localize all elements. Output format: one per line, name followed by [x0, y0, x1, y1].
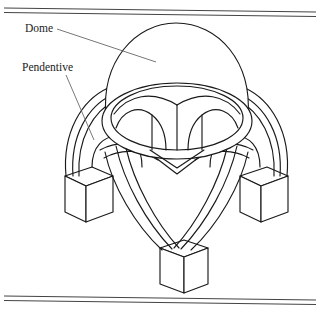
pier-left: [65, 167, 113, 222]
bottom-rule-line-2: [4, 301, 316, 305]
pendentive-front-groin-lower: [156, 158, 198, 174]
figure-page: Dome Pendentive: [0, 0, 320, 313]
arch-front-right-inner-2: [174, 148, 227, 248]
label-dome: Dome: [25, 22, 53, 34]
dome-structure: [65, 23, 288, 293]
pier-front: [160, 240, 208, 293]
arch-front-left-inner-2: [126, 148, 179, 248]
top-rule: [4, 8, 316, 17]
top-rule-line-2: [4, 13, 316, 17]
pier-right: [240, 167, 288, 222]
label-pendentive: Pendentive: [22, 61, 73, 73]
bottom-rule: [4, 296, 316, 305]
pendentive-dome-diagram: Dome Pendentive: [0, 0, 320, 313]
bottom-rule-line-1: [4, 296, 316, 300]
top-rule-line-1: [4, 8, 316, 12]
